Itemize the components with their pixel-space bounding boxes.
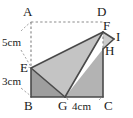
measurement-label-ae-length: 5cm bbox=[2, 37, 21, 48]
leader-eb2 bbox=[21, 88, 31, 96]
vertex-label-a: A bbox=[23, 5, 32, 18]
vertex-label-f: F bbox=[103, 19, 110, 32]
vertex-label-g: G bbox=[58, 99, 67, 112]
vertex-label-i: I bbox=[116, 30, 120, 43]
vertex-label-e: E bbox=[20, 61, 28, 74]
shaded-polygon-layer bbox=[31, 32, 114, 97]
vertex-label-d: D bbox=[97, 5, 106, 18]
vertex-label-c: C bbox=[104, 99, 113, 112]
vertex-label-b: B bbox=[24, 99, 33, 112]
measurement-label-eb-length: 3cm bbox=[2, 76, 21, 87]
geometry-diagram: ADFIHEBGC 5cm3cm4cm bbox=[0, 0, 133, 118]
measurement-label-gc-length: 4cm bbox=[72, 101, 91, 112]
vertex-label-h: H bbox=[105, 44, 114, 57]
leader-ae bbox=[21, 22, 31, 31]
